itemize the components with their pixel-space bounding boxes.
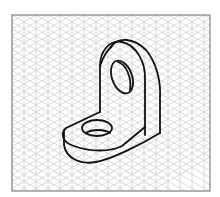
isometric-grid: [0, 0, 220, 197]
upright-front-edge: [100, 42, 145, 127]
isometric-drawing: [0, 0, 220, 197]
